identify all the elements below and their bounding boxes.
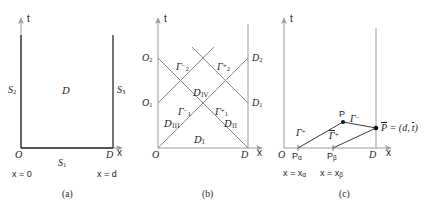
node-label-D2: D2: [252, 53, 262, 64]
origin-label-b: O: [152, 150, 159, 160]
axis-label-x-b: x: [257, 148, 262, 158]
panel-b-caption: (b): [202, 190, 213, 200]
region-label-D-IV: DIV: [193, 88, 208, 99]
panel-c: t x O D P P = (d, t) Γ+ Γ+ Γ− Pα Pβ x = …: [281, 0, 429, 205]
axis-label-t-a: t: [27, 14, 30, 24]
boundary-S1-label: S1: [58, 158, 66, 169]
characteristic-label-gamma1-plus: Γ+1: [215, 107, 228, 118]
point-P-label: P: [339, 110, 345, 119]
point-P-bar-marker: [374, 126, 379, 131]
characteristic-label-gamma-minus: Γ−: [350, 114, 360, 124]
origin-label-c: O: [278, 150, 285, 160]
characteristic-label-gamma1-minus: Γ−1: [178, 107, 191, 118]
boundary-S3-label: S3: [117, 85, 125, 96]
origin-label-a: O: [15, 150, 22, 160]
node-label-O2: O2: [142, 53, 152, 64]
axis-label-x-a: x: [117, 148, 122, 158]
boundary-S2-label: S2: [8, 85, 16, 96]
x-alpha-value: x = xα: [283, 169, 306, 179]
node-label-P-beta: Pβ: [327, 152, 337, 162]
region-D-label-a: D: [62, 86, 70, 96]
x-beta-value: x = xβ: [320, 169, 343, 179]
axis-label-t-c: t: [290, 14, 293, 24]
panel-a-caption: (a): [62, 190, 73, 200]
node-label-P-alpha: Pα: [292, 152, 302, 162]
panel-a: t x O D S2 S3 S1 D x = 0 x = d (a): [0, 0, 143, 205]
region-label-D-II: DII: [224, 119, 237, 130]
point-D-label-a: D: [106, 150, 113, 160]
point-P-bar-equation: P = (d, t): [381, 122, 418, 133]
characteristic-label-gamma2-plus: Γ+2: [217, 62, 230, 73]
characteristic-label-gamma2-minus: Γ−2: [176, 62, 189, 73]
x-right-value-a: x = d: [97, 170, 117, 179]
node-label-D1: D1: [252, 98, 262, 109]
figure-root: t x O D S2 S3 S1 D x = 0 x = d (a): [0, 0, 429, 205]
region-label-D-III: DIII: [164, 119, 180, 130]
node-label-O1: O1: [142, 98, 152, 109]
region-label-D-I: DI: [194, 135, 205, 146]
axis-label-t-b: t: [164, 14, 167, 24]
x-left-value-a: x = 0: [12, 170, 32, 179]
panel-b: t x O D O1 O2 D1 D2 Γ−2 Γ+2 Γ−1 Γ+1 DI D…: [138, 0, 284, 205]
characteristic-label-gamma-bar-plus: Γ+: [329, 130, 339, 141]
point-D-label-b: D: [241, 150, 248, 160]
point-P-marker: [341, 120, 345, 124]
characteristic-gamma-bar-plus-line: [333, 128, 376, 148]
panel-c-caption: (c): [339, 190, 350, 200]
point-D-label-c: D: [369, 150, 376, 160]
characteristic-label-gamma-plus: Γ+: [296, 128, 306, 138]
axis-label-x-c: x: [386, 148, 391, 158]
